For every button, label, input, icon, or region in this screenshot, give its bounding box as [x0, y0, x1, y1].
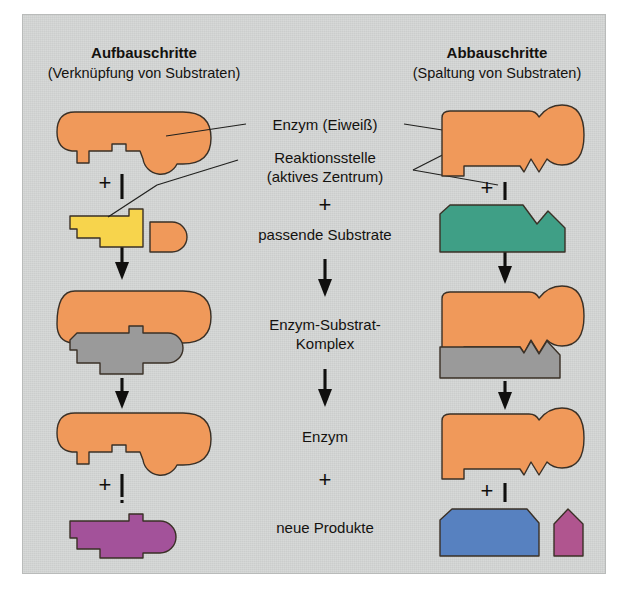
right-plus-1: +: [481, 175, 494, 200]
left-column-title: Aufbauschritte: [91, 44, 197, 61]
left-plus-1: +: [99, 170, 112, 195]
figure-root: Aufbauschritte (Verknüpfung von Substrat…: [0, 0, 621, 593]
left-enzyme-step1: [57, 112, 211, 174]
center-label-complex-line2: Komplex: [296, 335, 355, 352]
right-complex-step3: [440, 286, 584, 378]
left-complex-step3: [57, 291, 211, 374]
center-label-substrates: passende Substrate: [258, 226, 391, 243]
right-product-purple-small: [554, 509, 583, 556]
right-enzyme-step4: [442, 408, 584, 479]
left-enzyme-step4: [57, 413, 211, 475]
center-arrow-2: [318, 369, 332, 407]
left-plus-2: +: [99, 472, 112, 497]
center-label-complex-line1: Enzym-Substrat-: [269, 316, 381, 333]
center-label-active-site-line1: Reaktionsstelle: [274, 149, 376, 166]
center-arrow-1: [318, 259, 332, 297]
center-label-products: neue Produkte: [276, 519, 374, 536]
center-plus-2: +: [319, 467, 332, 492]
right-plus-2: +: [481, 478, 494, 503]
right-substrate-green: [440, 205, 565, 252]
right-enzyme-step1: [442, 105, 584, 176]
center-label-enzyme-again: Enzym: [302, 428, 348, 445]
center-label-enzyme: Enzym (Eiweiß): [272, 116, 377, 133]
center-plus-1: +: [319, 192, 332, 217]
left-substrate-yellow: [70, 209, 143, 247]
left-substrate-orange: [150, 222, 187, 252]
right-arrow-2: [498, 381, 512, 410]
left-arrow-2: [115, 378, 129, 409]
diagram-canvas: Aufbauschritte (Verknüpfung von Substrat…: [0, 0, 621, 593]
left-product-purple: [70, 514, 176, 558]
right-column-title: Abbauschritte: [447, 44, 548, 61]
left-column-subtitle: (Verknüpfung von Substraten): [48, 65, 241, 81]
center-label-active-site-line2: (aktives Zentrum): [267, 168, 384, 185]
right-column-subtitle: (Spaltung von Substraten): [413, 65, 581, 81]
right-product-blue: [440, 509, 539, 556]
